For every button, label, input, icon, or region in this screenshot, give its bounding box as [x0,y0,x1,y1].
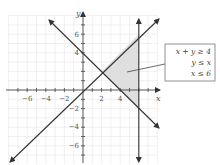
y-tick-label: 6 [75,31,80,39]
legend-inequality-1: x + y ≥ 4 [176,47,212,56]
inequality-graph: −6 −4 −2 2 4 6 4 −2 −4 −6 y x x + y ≥ 4 … [0,0,220,165]
x-axis-label: x [156,94,161,103]
y-axis-label: y [75,9,81,18]
y-tick-label: −2 [69,105,79,113]
line-x-plus-y-eq-4 [49,20,159,128]
legend-inequality-3: x ≤ 6 [191,69,211,78]
x-tick-label: 4 [118,95,123,103]
x-tick-label: −4 [41,95,52,103]
y-tick-label: −4 [69,123,80,131]
y-tick-label: −6 [69,142,80,150]
x-tick-label: −2 [59,95,69,103]
x-tick-label: −6 [22,95,33,103]
x-tick-label: 2 [99,95,103,103]
y-tick-label: 4 [75,49,80,57]
legend-box: x + y ≥ 4 y ≤ x x ≤ 6 [165,44,215,81]
legend-inequality-2: y ≤ x [190,58,211,67]
